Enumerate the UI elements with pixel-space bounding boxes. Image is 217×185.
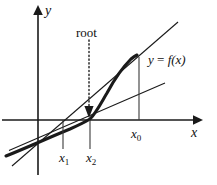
root-pointer: [84, 40, 93, 118]
tick-label-x2: x2: [86, 151, 96, 167]
y-axis-arrowhead: [33, 5, 43, 15]
x-axis-arrowhead: [193, 115, 203, 125]
x-axis: [2, 115, 203, 125]
curve-equation-label: y = f(x): [148, 53, 186, 66]
y-axis-label: y: [45, 4, 51, 18]
newton-method-figure: y x root y = f(x) x0 x1 x2: [0, 0, 217, 185]
y-axis: [33, 5, 43, 175]
curve-equation-equals: =: [154, 52, 168, 67]
tangent-line-at-x1: [9, 83, 165, 151]
tick-label-x2-sub: 2: [92, 157, 97, 167]
tick-label-x1: x1: [59, 151, 69, 167]
function-curve: [6, 55, 137, 156]
tick-label-x0: x0: [131, 127, 141, 143]
tick-label-x0-sub: 0: [137, 133, 142, 143]
curve-equation-arg: (x): [171, 52, 185, 67]
root-label: root: [76, 26, 97, 39]
tick-label-x1-sub: 1: [65, 157, 70, 167]
x-axis-label: x: [191, 126, 197, 140]
figure-canvas: [0, 0, 217, 185]
